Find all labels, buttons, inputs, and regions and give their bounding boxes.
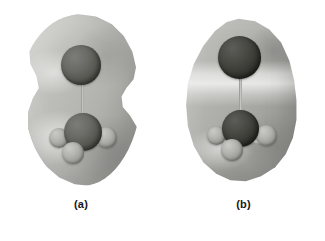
molecule-stage-a — [0, 0, 162, 196]
figure-canvas: (a) (b) — [0, 0, 325, 241]
panel-caption-b: (b) — [162, 198, 325, 210]
molecule-stage-b — [162, 0, 325, 196]
atom-hydrogen-3-b — [221, 139, 243, 161]
atom-hydrogen-3-a — [62, 142, 84, 164]
figure-panel-a: (a) — [0, 0, 162, 241]
atom-top-a — [61, 45, 101, 85]
atom-top-b — [218, 36, 261, 79]
panel-caption-a: (a) — [0, 198, 162, 210]
atom-hydrogen-2-b — [256, 125, 277, 146]
